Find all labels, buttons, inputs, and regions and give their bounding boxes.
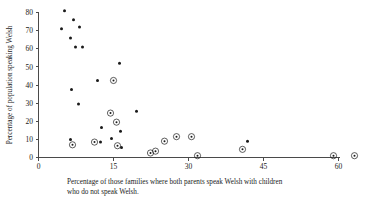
data-point-filled (78, 26, 81, 29)
marker-center-dot (94, 141, 96, 143)
plot-canvas: 01020304050607080015304560 Percentage of… (0, 0, 376, 207)
data-point-filled (119, 130, 122, 133)
data-point-filled (70, 88, 73, 91)
data-point-circled (114, 143, 120, 149)
tick-labels: 01020304050607080015304560 (26, 8, 343, 171)
marker-center-dot (164, 140, 166, 142)
x-tick-label-0: 0 (37, 162, 41, 171)
y-tick-label-10: 10 (26, 135, 34, 144)
marker-center-dot (155, 150, 157, 152)
data-point-circled (188, 134, 194, 140)
y-tick-label-40: 40 (26, 81, 34, 90)
data-point-filled (118, 62, 121, 65)
axes (39, 12, 340, 158)
x-tick-label-60: 60 (335, 162, 343, 171)
y-axis-title: Percentage of population speaking Welsh (6, 25, 14, 144)
marker-center-dot (117, 145, 119, 147)
data-point-circled (161, 138, 167, 144)
data-point-circled (239, 146, 245, 152)
marker-center-dot (354, 155, 356, 157)
marker-center-dot (191, 136, 193, 138)
data-point-filled (60, 27, 63, 30)
x-tick-label-30: 30 (185, 162, 193, 171)
x-tick-label-15: 15 (110, 162, 118, 171)
marker-center-dot (110, 112, 112, 114)
data-point-circled (110, 77, 116, 83)
marker-center-dot (113, 79, 115, 81)
marker-center-dot (72, 144, 74, 146)
data-point-filled (96, 79, 99, 82)
marker-center-dot (333, 155, 335, 157)
x-axis-title-line-2: who do not speak Welsh. (67, 188, 139, 196)
y-tick-label-20: 20 (26, 117, 34, 126)
data-point-filled (81, 45, 84, 48)
data-point-circled (69, 142, 75, 148)
x-tick-label-45: 45 (260, 162, 268, 171)
data-point-filled (63, 9, 66, 12)
data-point-circled (173, 134, 179, 140)
data-point-circled (91, 139, 97, 145)
data-point-filled (99, 141, 102, 144)
marker-center-dot (176, 136, 178, 138)
axis-titles: Percentage of population speaking WelshP… (6, 25, 283, 195)
marker-center-dot (197, 155, 199, 157)
y-tick-label-60: 60 (26, 44, 34, 53)
data-point-filled (74, 45, 77, 48)
data-point-filled (100, 126, 103, 129)
data-point-circled (113, 119, 119, 125)
data-points (60, 9, 358, 159)
data-point-filled (69, 36, 72, 39)
y-tick-label-80: 80 (26, 8, 34, 17)
data-point-filled (77, 103, 80, 106)
marker-center-dot (116, 121, 118, 123)
data-point-filled (246, 140, 249, 143)
scatter-plot-figure: 01020304050607080015304560 Percentage of… (0, 0, 376, 207)
tick-marks (36, 13, 339, 161)
x-axis-title-line-1: Percentage of those families where both … (67, 178, 283, 186)
y-tick-label-70: 70 (26, 26, 34, 35)
y-tick-label-0: 0 (29, 153, 33, 162)
y-tick-label-50: 50 (26, 63, 34, 72)
marker-center-dot (242, 148, 244, 150)
data-point-circled (107, 110, 113, 116)
data-point-filled (135, 110, 138, 113)
data-point-filled (110, 137, 113, 140)
data-point-circled (351, 153, 357, 159)
data-point-filled (69, 138, 72, 141)
y-tick-label-30: 30 (26, 99, 34, 108)
marker-center-dot (150, 152, 152, 154)
data-point-filled (72, 18, 75, 21)
